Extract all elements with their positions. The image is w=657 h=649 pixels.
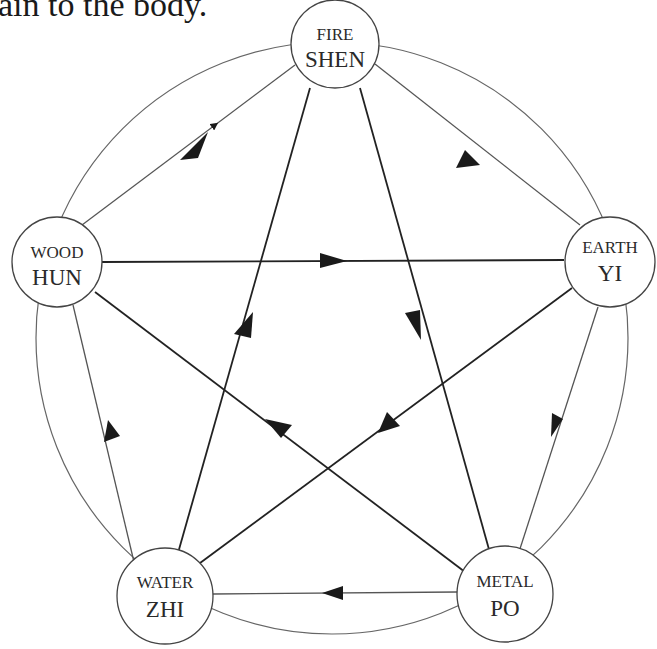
node-wood-element: WOOD: [31, 243, 84, 262]
node-wood: WOOD HUN: [12, 217, 102, 307]
node-water: WATER ZHI: [117, 548, 213, 644]
generating-cycle: [73, 64, 598, 600]
node-fire-element: FIRE: [317, 25, 354, 44]
arrow-wood-to-earth-icon: [320, 253, 347, 268]
arrow-fire-to-earth-icon: [456, 150, 480, 168]
arrow-metal-to-water-icon: [322, 586, 343, 600]
node-water-element: WATER: [137, 573, 194, 592]
arrow-wood-to-fire-icon: [180, 132, 208, 160]
node-earth-element: EARTH: [582, 238, 638, 257]
node-earth: EARTH YI: [565, 217, 655, 307]
controlling-cycle: [95, 88, 572, 572]
node-metal: METAL PO: [457, 546, 553, 642]
five-elements-diagram: FIRE SHEN WOOD HUN EARTH YI WATER ZHI ME…: [0, 0, 657, 649]
arrow-water-to-wood-icon: [104, 420, 120, 442]
node-water-spirit: ZHI: [146, 597, 184, 622]
arrow-earth-to-water-icon: [378, 412, 400, 433]
arrow-water-to-fire-icon: [234, 312, 253, 338]
node-metal-element: METAL: [476, 572, 533, 591]
node-fire: FIRE SHEN: [291, 0, 379, 88]
arrow-fire-to-metal-icon: [405, 310, 421, 340]
outer-circle: [36, 42, 628, 634]
node-earth-spirit: YI: [598, 261, 622, 286]
arrow-metal-to-wood-icon: [265, 419, 292, 438]
node-metal-spirit: PO: [490, 596, 519, 621]
node-wood-spirit: HUN: [32, 265, 82, 290]
node-fire-spirit: SHEN: [305, 47, 365, 72]
